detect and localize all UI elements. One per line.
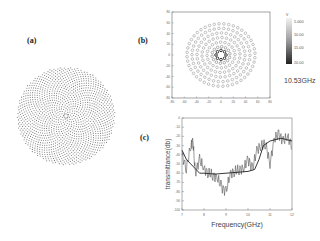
lattice-dot bbox=[45, 86, 46, 87]
lattice-dot bbox=[73, 103, 74, 104]
lattice-dot bbox=[31, 118, 32, 119]
y-tick-label: 60 bbox=[166, 21, 170, 25]
lattice-dot bbox=[88, 138, 89, 139]
lattice-dot bbox=[86, 124, 87, 125]
lattice-dot bbox=[23, 98, 24, 99]
x-tick-label: -40 bbox=[194, 100, 199, 104]
lattice-dot bbox=[39, 147, 40, 148]
lattice-dot bbox=[95, 112, 96, 113]
x-tick-label: -60 bbox=[182, 100, 187, 104]
lattice-dot bbox=[62, 104, 63, 105]
lattice-dot bbox=[113, 120, 114, 121]
lattice-dot bbox=[106, 103, 107, 104]
lattice-dot bbox=[99, 126, 100, 127]
lattice-dot bbox=[84, 97, 85, 98]
lattice-dot bbox=[34, 133, 35, 134]
lattice-dot bbox=[17, 113, 18, 114]
lattice-dot bbox=[109, 131, 110, 132]
lattice-dot bbox=[34, 106, 35, 107]
lattice-dot bbox=[70, 82, 71, 83]
lattice-dot bbox=[80, 76, 81, 77]
lattice-dot bbox=[47, 96, 48, 97]
lattice-dot bbox=[28, 109, 29, 110]
lattice-dot bbox=[96, 126, 97, 127]
lattice-dot bbox=[59, 70, 60, 71]
lattice-dot bbox=[81, 72, 82, 73]
lattice-dot bbox=[65, 77, 66, 78]
lattice-dot bbox=[49, 80, 50, 81]
lattice-dot bbox=[66, 74, 67, 75]
lattice-dot bbox=[103, 103, 104, 104]
lattice-dot bbox=[40, 130, 41, 131]
lattice-dot bbox=[32, 120, 33, 121]
lattice-dot bbox=[111, 121, 112, 122]
lattice-dot bbox=[106, 110, 107, 111]
lattice-dot bbox=[64, 141, 65, 142]
lattice-dot bbox=[31, 85, 32, 86]
lattice-dot bbox=[60, 151, 61, 152]
lattice-dot bbox=[89, 109, 90, 110]
lattice-dot bbox=[91, 126, 92, 127]
lattice-dot bbox=[49, 160, 50, 161]
lattice-dot bbox=[76, 160, 77, 161]
lattice-dot bbox=[66, 98, 67, 99]
lattice-dot bbox=[46, 84, 47, 85]
lattice-dot bbox=[103, 118, 104, 119]
lattice-dot bbox=[18, 109, 19, 110]
lattice-dot bbox=[108, 139, 109, 140]
lattice-dot bbox=[49, 98, 50, 99]
lattice-dot bbox=[42, 96, 43, 97]
lattice-dot bbox=[81, 136, 82, 137]
lattice-dot bbox=[93, 109, 94, 110]
lattice-dot bbox=[47, 79, 48, 80]
lattice-dot bbox=[91, 83, 92, 84]
lattice-dot bbox=[39, 149, 40, 150]
y-tick-label: -20 bbox=[175, 134, 180, 138]
lattice-dot bbox=[46, 119, 47, 120]
lattice-dot bbox=[47, 82, 48, 83]
lattice-dot bbox=[85, 149, 86, 150]
lattice-dot bbox=[76, 108, 77, 109]
lattice-dot bbox=[21, 132, 22, 133]
lattice-dot bbox=[40, 111, 41, 112]
lattice-dot bbox=[40, 137, 41, 138]
lattice-dot bbox=[25, 98, 26, 99]
lattice-dot bbox=[103, 93, 104, 94]
lattice-dot bbox=[103, 145, 104, 146]
lattice-dot bbox=[90, 112, 91, 113]
lattice-dot bbox=[98, 140, 99, 141]
lattice-dot bbox=[41, 120, 42, 121]
lattice-dot bbox=[49, 145, 50, 146]
lattice-dot bbox=[98, 80, 99, 81]
lattice-dot bbox=[47, 135, 48, 136]
lattice-dot bbox=[102, 133, 103, 134]
lattice-dot bbox=[36, 122, 37, 123]
lattice-dot bbox=[104, 142, 105, 143]
lattice-dot bbox=[44, 95, 45, 96]
lattice-dot bbox=[53, 130, 54, 131]
lattice-dot bbox=[63, 135, 64, 136]
lattice-dot bbox=[61, 92, 62, 93]
lattice-dot bbox=[92, 103, 93, 104]
lattice-dot bbox=[90, 76, 91, 77]
lattice-dot bbox=[101, 108, 102, 109]
lattice-dot bbox=[76, 72, 77, 73]
lattice-dot bbox=[80, 119, 81, 120]
lattice-dot bbox=[50, 78, 51, 79]
lattice-dot bbox=[60, 116, 61, 117]
lattice-dot bbox=[26, 116, 27, 117]
lattice-dot bbox=[59, 146, 60, 147]
lattice-dot bbox=[27, 128, 28, 129]
lattice-dot bbox=[84, 117, 85, 118]
lattice-dot bbox=[30, 113, 31, 114]
lattice-dot bbox=[106, 129, 107, 130]
lattice-dot bbox=[114, 112, 115, 113]
lattice-dot bbox=[26, 141, 27, 142]
lattice-dot bbox=[65, 136, 66, 137]
lattice-dot bbox=[61, 145, 62, 146]
lattice-dot bbox=[51, 141, 52, 142]
lattice-dot bbox=[101, 145, 102, 146]
lattice-dot bbox=[58, 101, 59, 102]
lattice-dot bbox=[70, 161, 71, 162]
y-tick-label: -40 bbox=[165, 75, 170, 79]
